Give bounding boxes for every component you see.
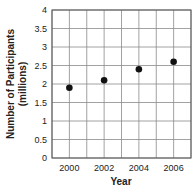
y-tick-label: 3 — [42, 42, 47, 52]
data-point — [101, 77, 108, 84]
x-axis-title: Year — [110, 176, 131, 187]
y-tick-label: 2.5 — [34, 61, 47, 71]
x-tick-label: 2004 — [129, 163, 149, 173]
y-axis-ticks: 00.511.522.533.54 — [34, 5, 47, 163]
y-tick-label: 1 — [42, 116, 47, 126]
x-axis-ticks: 2000200220042006 — [59, 163, 183, 173]
scatter-chart: 00.511.522.533.54 2000200220042006 Year … — [0, 0, 194, 193]
data-point — [136, 66, 143, 73]
y-tick-label: 0.5 — [34, 135, 47, 145]
x-tick-label: 2000 — [59, 163, 79, 173]
y-tick-label: 1.5 — [34, 98, 47, 108]
data-point — [66, 84, 73, 91]
x-tick-label: 2002 — [94, 163, 114, 173]
y-tick-label: 0 — [42, 153, 47, 163]
y-tick-label: 2 — [42, 79, 47, 89]
x-tick-label: 2006 — [164, 163, 184, 173]
y-tick-label: 3.5 — [34, 24, 47, 34]
y-axis-units: (millions) — [17, 62, 28, 106]
grid-lines — [52, 10, 191, 158]
y-axis-title-group: Number of Participants (millions) — [5, 29, 28, 139]
y-tick-label: 4 — [42, 5, 47, 15]
y-axis-title: Number of Participants — [5, 29, 16, 139]
data-point — [170, 59, 177, 66]
